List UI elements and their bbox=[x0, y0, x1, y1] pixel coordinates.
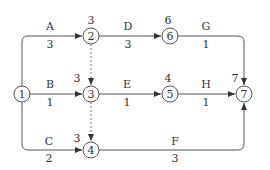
node-label-3: 3 bbox=[88, 88, 95, 101]
node-time-3: 3 bbox=[74, 72, 81, 85]
activity-dur-b: 1 bbox=[47, 96, 54, 109]
node-label-5: 5 bbox=[167, 88, 174, 101]
node-label-1: 1 bbox=[19, 88, 26, 101]
node-label-2: 2 bbox=[88, 30, 95, 43]
activity-dur-d: 3 bbox=[125, 38, 132, 51]
node-label-6: 6 bbox=[167, 30, 174, 43]
activity-name-e: E bbox=[123, 78, 131, 91]
activity-name-b: B bbox=[46, 78, 54, 91]
activity-name-c: C bbox=[45, 135, 53, 148]
activity-name-d: D bbox=[124, 20, 133, 33]
activity-name-a: A bbox=[45, 20, 55, 33]
node-time-2: 3 bbox=[88, 14, 95, 27]
node-label-4: 4 bbox=[88, 144, 95, 157]
activity-name-g: G bbox=[202, 20, 211, 33]
activity-dur-f: 3 bbox=[172, 152, 179, 165]
activity-dur-a: 3 bbox=[47, 38, 54, 51]
node-label-7: 7 bbox=[241, 88, 248, 101]
node-time-7: 7 bbox=[232, 72, 239, 85]
activity-name-h: H bbox=[201, 78, 211, 91]
activity-dur-g: 1 bbox=[203, 38, 210, 51]
activity-dur-e: 1 bbox=[124, 96, 131, 109]
activity-dur-c: 2 bbox=[46, 152, 53, 165]
network-diagram: 1 2 3 4 5 6 7 3 3 3 4 6 7 A 3 B 1 C 2 D … bbox=[0, 0, 270, 170]
activity-name-f: F bbox=[171, 135, 179, 148]
activity-dur-h: 1 bbox=[203, 96, 210, 109]
node-time-6: 6 bbox=[165, 14, 172, 27]
node-time-4: 3 bbox=[74, 132, 81, 145]
node-time-5: 4 bbox=[165, 72, 172, 85]
